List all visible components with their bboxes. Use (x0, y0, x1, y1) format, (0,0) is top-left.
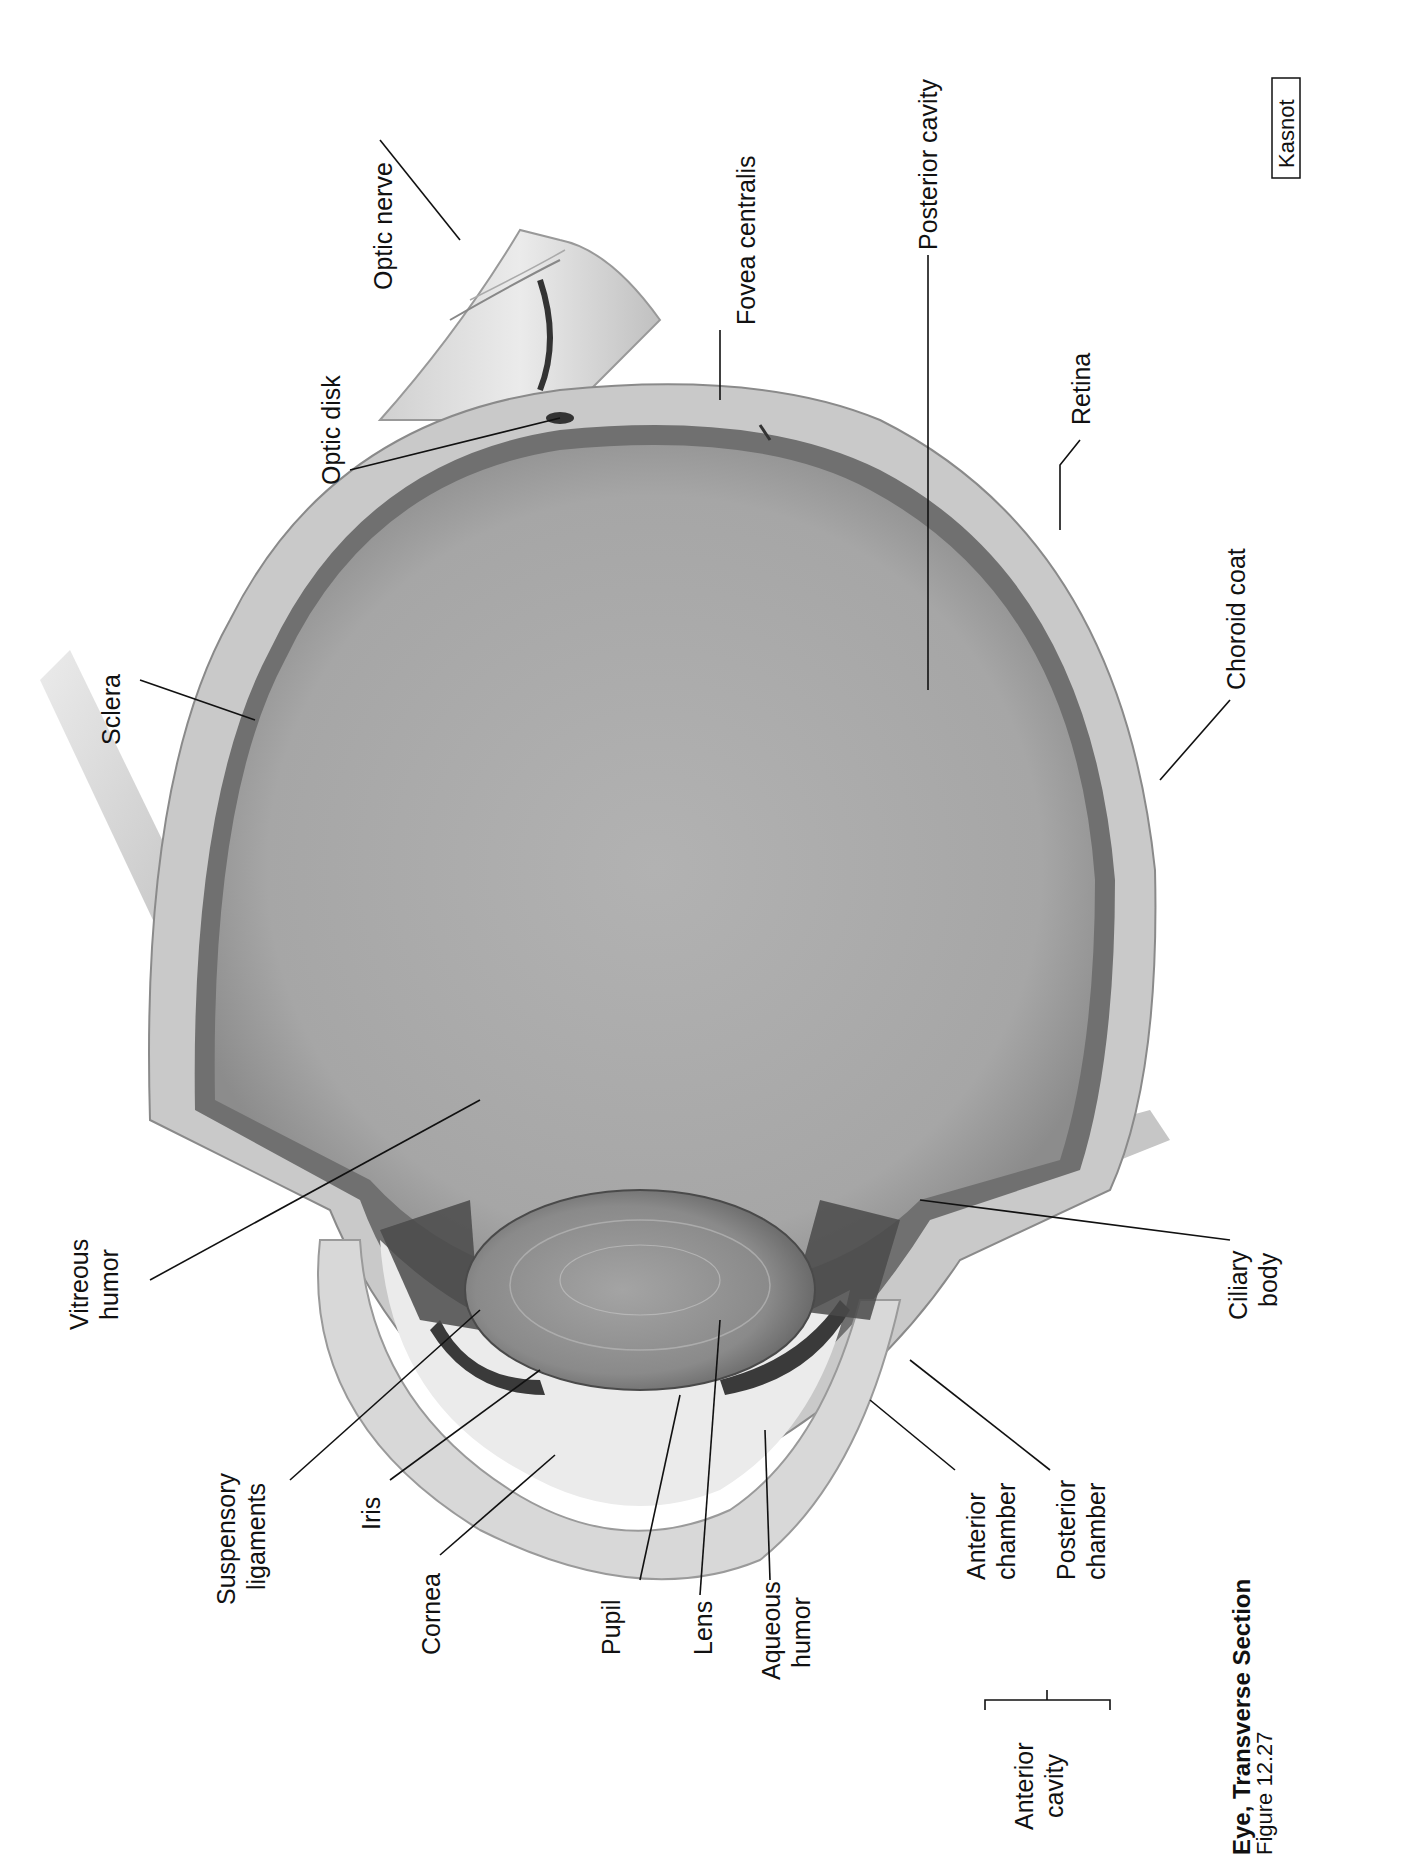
label-vitreous-humor-line2: humor (95, 1249, 123, 1320)
label-ciliary-body-line2: body (1254, 1252, 1282, 1307)
label-posterior-cavity: Posterior cavity (914, 79, 942, 250)
label-suspensory-ligaments-line1: Suspensory (212, 1472, 240, 1605)
label-aqueous-humor-line2: humor (787, 1597, 815, 1668)
eye-illustration (40, 230, 1170, 1579)
label-iris: Iris (357, 1497, 385, 1530)
eye-diagram: Optic nerve Fovea centralis Posterior ca… (0, 0, 1401, 1876)
label-suspensory-ligaments-line2: ligaments (242, 1483, 270, 1590)
label-optic-nerve: Optic nerve (369, 162, 397, 290)
label-lens: Lens (689, 1601, 717, 1655)
label-anterior-cavity-line2: cavity (1040, 1754, 1068, 1818)
label-anterior-chamber-line2: chamber (992, 1483, 1020, 1580)
label-choroid-coat: Choroid coat (1222, 548, 1250, 690)
label-posterior-chamber-line1: Posterior (1052, 1480, 1080, 1580)
label-anterior-chamber-line1: Anterior (962, 1492, 990, 1580)
vitreous-body (215, 445, 1095, 1291)
figure-subtitle: Figure 12.27 (1252, 1731, 1277, 1855)
label-ciliary-body-line1: Ciliary (1224, 1250, 1252, 1320)
label-pupil: Pupil (597, 1599, 625, 1655)
label-retina: Retina (1067, 353, 1095, 425)
figure-title: Eye, Transverse Section (1228, 1579, 1255, 1855)
label-optic-disk: Optic disk (317, 375, 345, 485)
label-cornea: Cornea (417, 1573, 445, 1655)
label-sclera: Sclera (97, 674, 125, 745)
label-posterior-chamber-line2: chamber (1082, 1483, 1110, 1580)
label-aqueous-humor-line1: Aqueous (757, 1581, 785, 1680)
credit-text: Kasnot (1274, 100, 1299, 169)
label-anterior-cavity-line1: Anterior (1010, 1742, 1038, 1830)
label-vitreous-humor-line1: Vitreous (65, 1239, 93, 1330)
label-fovea-centralis: Fovea centralis (732, 155, 760, 325)
